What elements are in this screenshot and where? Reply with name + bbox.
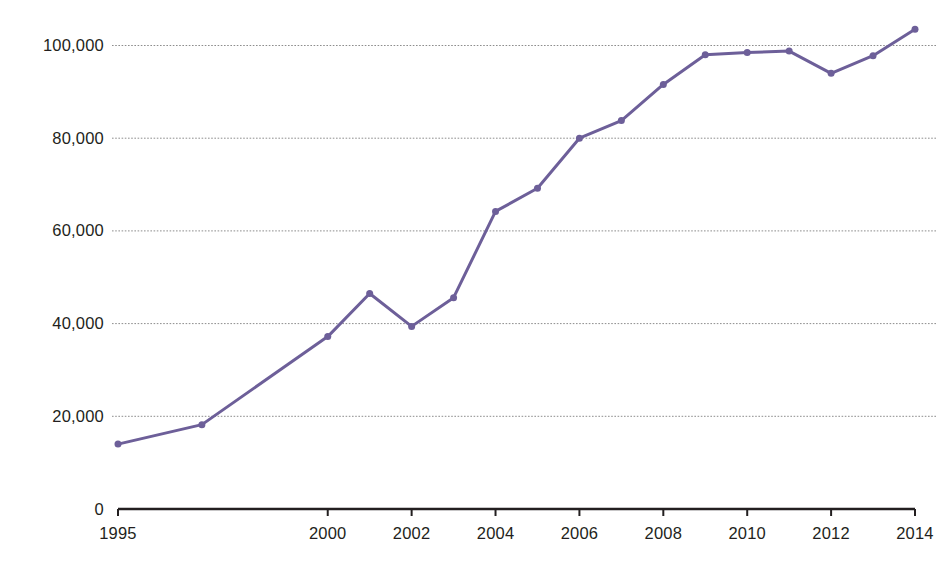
data-point[interactable] (912, 26, 919, 33)
data-markers (115, 26, 919, 448)
data-point[interactable] (660, 81, 667, 88)
data-point[interactable] (534, 185, 541, 192)
data-point[interactable] (198, 421, 205, 428)
data-point[interactable] (828, 70, 835, 77)
data-point[interactable] (324, 333, 331, 340)
line-chart: 020,00040,00060,00080,000100,000 1995200… (0, 0, 945, 572)
data-point[interactable] (786, 48, 793, 55)
data-point[interactable] (492, 208, 499, 215)
data-point[interactable] (744, 49, 751, 56)
data-point[interactable] (450, 294, 457, 301)
data-point[interactable] (408, 323, 415, 330)
data-line (118, 29, 915, 444)
data-point[interactable] (115, 441, 122, 448)
data-point[interactable] (702, 51, 709, 58)
data-point[interactable] (366, 290, 373, 297)
data-point[interactable] (870, 52, 877, 59)
series-line-series-1 (118, 29, 915, 444)
plot-area (0, 0, 945, 572)
data-point[interactable] (576, 135, 583, 142)
data-point[interactable] (618, 117, 625, 124)
gridlines (112, 46, 936, 417)
